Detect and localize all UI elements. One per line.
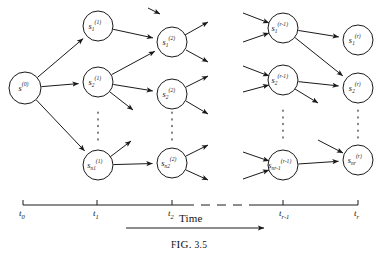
tick-label-subscript: 1: [96, 213, 99, 220]
node-label-superscript: (r): [355, 81, 361, 88]
axis-tick-label-tr: tr: [354, 208, 359, 220]
node-label-superscript: (r-1): [281, 158, 292, 165]
node-label-superscript: (2): [169, 87, 176, 94]
node-label-subscript: 1: [92, 26, 95, 32]
node-label-superscript: (r): [356, 153, 362, 160]
stub-s2-2-down: [186, 101, 208, 114]
state-node-s1_1[interactable]: s1(1): [83, 11, 113, 41]
state-node-s1_2[interactable]: s1(2): [157, 27, 187, 57]
node-label-superscript: (r-1): [278, 73, 289, 80]
node-label-superscript: (1): [95, 19, 102, 26]
in-s1-r1-lower: [243, 33, 269, 42]
figure-caption: FIG. 3.5: [171, 238, 207, 250]
node-circle: [157, 79, 187, 109]
in-s1-r1-upper: [243, 13, 269, 23]
state-node-s1_r[interactable]: s1(r): [343, 25, 373, 55]
axis-tick-label-t0: t0: [19, 208, 25, 220]
axis-tick-label-t2: t2: [168, 208, 174, 220]
axis-tick-label-tr-1: tr-1: [279, 208, 289, 220]
edge-s0-to-s1_1: [38, 39, 84, 78]
figure-3-5-trellis-diagram: s(0)s1(1)s2(1)sn1(1)s1(2)s2(2)sn2(2)s1(r…: [0, 0, 391, 259]
state-node-sn1_1[interactable]: sn1(1): [83, 150, 113, 180]
state-node-s2_r[interactable]: s2(r): [343, 73, 373, 103]
in-s2-r1-upper: [243, 66, 269, 76]
state-node-sn2_2[interactable]: sn2(2): [157, 148, 187, 178]
tick-label-subscript: r: [357, 213, 360, 220]
node-label-superscript: (0): [22, 81, 29, 88]
node-label-subscript: n1: [90, 165, 96, 171]
node-label-subscript: 2: [92, 82, 95, 88]
edge-s0-to-s2_1: [41, 84, 78, 87]
node-label-subscript: 1: [275, 28, 278, 34]
node-label-subscript: n2: [164, 163, 170, 169]
node-label-subscript: 2: [275, 80, 278, 86]
stub-edge-layer: [110, 8, 343, 180]
in-snr1-lower: [243, 170, 269, 179]
node-circle: [343, 73, 373, 103]
node-label-subscript: 1: [352, 40, 355, 46]
state-node-s2_1[interactable]: s2(1): [83, 67, 113, 97]
edge-s2_r1-to-s2_r: [298, 82, 338, 86]
state-node-s2_r1[interactable]: s2(r-1): [268, 65, 298, 95]
node-label-superscript: (r-1): [278, 21, 289, 28]
edge-s0-to-sn1_1: [36, 100, 84, 151]
axis-tick-label-t1: t1: [93, 208, 99, 220]
in-s1-r-upper: [148, 8, 160, 14]
node-label-superscript: (2): [170, 156, 177, 163]
node-label-superscript: (1): [95, 75, 102, 82]
edge-snr1_r1-to-snr_r: [298, 161, 338, 164]
tick-label-subscript: 0: [22, 213, 25, 220]
figure-caption-number: 3.5: [195, 240, 208, 250]
node-circle: [343, 25, 373, 55]
edge-s1_1-to-s1_2: [113, 29, 153, 38]
ellipsis-layer: [98, 110, 358, 143]
stub-s2-2-up: [186, 76, 208, 87]
node-layer: s(0)s1(1)s2(1)sn1(1)s1(2)s2(2)sn2(2)s1(r…: [9, 11, 373, 180]
node-label-subscript: 1: [166, 42, 169, 48]
stub-s1-2-down: [186, 50, 208, 62]
in-snr1-upper: [243, 152, 269, 161]
tick-label-subscript: 2: [171, 213, 174, 220]
edge-layer: [36, 29, 342, 164]
node-label-superscript: (1): [96, 158, 103, 165]
node-label-superscript: (r): [355, 33, 361, 40]
node-label-subscript: nr-1: [272, 165, 281, 171]
state-node-s1_r1[interactable]: s1(r-1): [268, 13, 298, 43]
edge-s2_1-to-s1_2: [112, 51, 155, 74]
edge-s2_1-to-s2_2: [113, 84, 152, 90]
node-circle: [157, 27, 187, 57]
time-axis-layer: [23, 200, 358, 205]
edge-sn1_1-to-sn2_2: [113, 164, 152, 165]
state-node-s2_2[interactable]: s2(2): [157, 79, 187, 109]
edge-s1_r1-to-s1_r: [298, 30, 338, 36]
state-node-snr1_r1[interactable]: snr-1(r-1): [268, 150, 298, 180]
in-snr-r-upper: [318, 140, 343, 153]
state-node-snr_r[interactable]: snr(r): [343, 145, 373, 175]
stub-sn1-1-up: [110, 141, 131, 157]
in-s2-r1-lower: [243, 85, 269, 92]
stub-s2-1-down: [110, 92, 133, 110]
state-node-s0[interactable]: s(0): [9, 72, 41, 104]
node-circle: [9, 72, 41, 104]
time-axis-label: Time: [179, 212, 203, 224]
stub-sn2-2-down: [186, 170, 208, 180]
node-circle: [83, 11, 113, 41]
stub-s1-2-up: [185, 22, 208, 35]
tick-label-subscript: r-1: [282, 213, 290, 220]
stub-s2-r1-down: [295, 89, 318, 103]
node-label-superscript: (2): [169, 35, 176, 42]
figure-caption-word: IG.: [177, 238, 192, 250]
stub-sn2-2-up: [186, 145, 208, 156]
node-label-subscript: 2: [166, 94, 169, 100]
edge-s1_r1-to-s2_r: [295, 38, 343, 76]
node-label-subscript: 2: [352, 88, 355, 94]
node-circle: [83, 67, 113, 97]
